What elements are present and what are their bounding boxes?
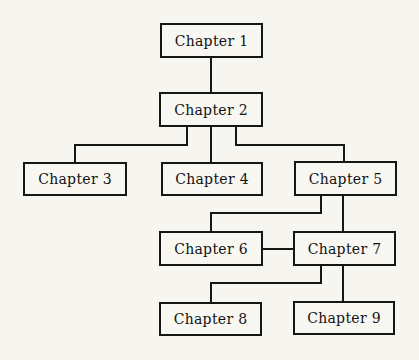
chapter-box-label: Chapter 2 bbox=[174, 102, 248, 118]
chapter-dependency-diagram: Chapter 1Chapter 2Chapter 3Chapter 4Chap… bbox=[0, 0, 419, 360]
chapter-box-ch5: Chapter 5 bbox=[294, 161, 397, 196]
connector-ch7-ch8 bbox=[211, 266, 321, 302]
chapter-box-label: Chapter 5 bbox=[309, 171, 383, 187]
chapter-box-label: Chapter 4 bbox=[175, 171, 249, 187]
chapter-box-label: Chapter 9 bbox=[307, 310, 381, 326]
chapter-box-ch4: Chapter 4 bbox=[161, 162, 263, 196]
chapter-box-ch7: Chapter 7 bbox=[293, 231, 396, 266]
chapter-box-ch9: Chapter 9 bbox=[293, 301, 395, 335]
chapter-box-label: Chapter 3 bbox=[38, 171, 112, 187]
chapter-box-ch1: Chapter 1 bbox=[160, 23, 263, 58]
chapter-box-label: Chapter 7 bbox=[308, 241, 382, 257]
chapter-box-ch6: Chapter 6 bbox=[159, 231, 263, 266]
connector-ch2-ch5 bbox=[236, 127, 344, 161]
chapter-box-label: Chapter 6 bbox=[174, 241, 248, 257]
chapter-box-ch3: Chapter 3 bbox=[23, 162, 127, 196]
chapter-box-ch2: Chapter 2 bbox=[159, 92, 263, 127]
connector-ch5-ch6 bbox=[211, 196, 321, 231]
connector-ch2-ch3 bbox=[75, 127, 187, 162]
chapter-box-ch8: Chapter 8 bbox=[159, 302, 262, 336]
chapter-box-label: Chapter 1 bbox=[175, 33, 249, 49]
chapter-box-label: Chapter 8 bbox=[174, 311, 248, 327]
